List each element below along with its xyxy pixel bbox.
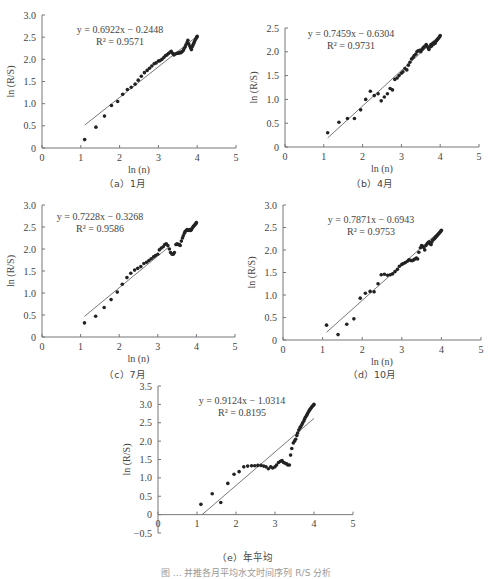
x-tick-label: 2 [234,518,239,529]
chart-c-svg: 00.51.01.52.02.53.0012345ln (n)ln (R/S)y… [0,195,246,370]
y-tick-label: 1.5 [267,70,280,81]
data-point [359,108,363,112]
data-point [326,131,330,135]
data-point [83,321,87,325]
y-tick-label: 2.5 [267,23,280,34]
data-point [379,99,383,103]
data-point [253,464,257,468]
y-axis-label: ln (R/S) [5,66,17,98]
trend-line [327,230,442,333]
x-tick-label: 3 [273,518,278,529]
data-point [368,290,372,294]
data-point [312,403,316,407]
r-squared: R² = 0.8195 [218,407,266,418]
x-tick-label: 4 [439,344,444,355]
chart-a-svg: 00.51.01.52.02.53.0012345ln (n)ln (R/S)y… [0,0,246,175]
y-tick-label: −0.5 [134,528,152,539]
data-point [364,98,368,102]
data-point [102,306,106,310]
y-tick-label: 1.0 [24,288,37,299]
y-tick-label: 0.5 [267,118,280,129]
y-tick-label: 3.0 [140,399,153,410]
y-tick-label: 0 [274,142,279,153]
y-tick-label: 0.5 [140,491,153,502]
y-tick-label: 2.5 [24,32,37,43]
r-squared: R² = 0.9731 [327,40,375,51]
data-point [199,503,203,507]
x-tick-label: 2 [360,151,365,162]
data-point [156,252,160,256]
data-point [129,271,133,275]
data-point [133,268,137,272]
y-tick-label: 2.5 [140,417,153,428]
y-tick-label: 1.0 [140,472,153,483]
data-point [288,463,292,467]
y-tick-label: 1.5 [265,267,278,278]
data-point [250,464,254,468]
data-point [180,239,184,243]
data-point [352,317,356,321]
data-point [372,94,376,98]
data-point [438,34,442,38]
x-tick-label: 2 [117,152,122,163]
data-point [364,291,368,295]
data-point [94,315,98,319]
chart-d: 00.51.01.52.02.53.0012345ln (n)ln (R/S)y… [246,195,492,370]
data-point [408,60,412,64]
data-point [195,221,199,225]
data-point [336,333,340,337]
x-tick-label: 2 [360,344,365,355]
y-tick-label: 0 [31,332,36,343]
y-tick-label: 3.0 [24,200,37,211]
chart-b-svg: 00.51.01.52.02.5012345ln (n)ln (R/S)y = … [246,0,492,175]
x-tick-label: 4 [195,152,200,163]
data-point [136,267,140,271]
data-point [219,501,223,505]
y-tick-label: 2.5 [24,222,37,233]
x-tick-label: 0 [40,152,45,163]
data-point [115,290,119,294]
x-tick-label: 3 [155,341,160,352]
y-axis-label: ln (R/S) [121,444,133,476]
x-tick-label: 0 [281,344,286,355]
data-point [372,290,376,294]
data-point [391,88,395,92]
x-tick-label: 0 [283,151,288,162]
y-tick-label: 1.5 [24,76,37,87]
data-point [294,437,298,441]
x-tick-label: 3 [156,152,161,163]
x-tick-label: 0 [156,518,161,529]
r-squared: R² = 0.9753 [347,226,395,237]
y-axis-label: ln (R/S) [246,257,258,289]
chart-b: 00.51.01.52.02.5012345ln (n)ln (R/S)y = … [246,0,492,175]
data-point [116,100,120,104]
figure-caption: 图 … 并推各月平均水文时间序列 R/S 分析 [0,566,492,579]
data-point [358,296,362,300]
data-point [125,276,129,280]
regression-equation: y = 0.6922x − 0.2448 [77,24,163,35]
data-point [136,78,140,82]
y-tick-label: 1.5 [24,266,37,277]
x-tick-label: 5 [233,341,238,352]
data-point [242,465,246,469]
y-tick-label: 1.0 [265,290,278,301]
y-tick-label: 1.0 [267,94,280,105]
data-point [353,117,357,121]
x-tick-label: 1 [321,151,326,162]
data-point [129,85,133,89]
regression-equation: y = 0.7459x − 0.6304 [308,28,394,39]
x-tick-label: 5 [479,344,484,355]
y-tick-label: 0.5 [24,120,37,131]
data-point [376,92,380,96]
data-point [210,492,214,496]
x-tick-label: 4 [194,341,199,352]
regression-equation: y = 0.9124x − 1.0314 [199,395,285,406]
y-tick-label: 2.0 [140,436,153,447]
data-point [417,250,421,254]
data-point [405,68,409,72]
data-point [120,282,124,286]
data-point [379,273,383,277]
chart-e-svg: −0.500.51.01.52.02.53.03.5012345ln (n)ln… [110,378,370,553]
data-point [337,120,341,124]
data-point [369,90,373,94]
